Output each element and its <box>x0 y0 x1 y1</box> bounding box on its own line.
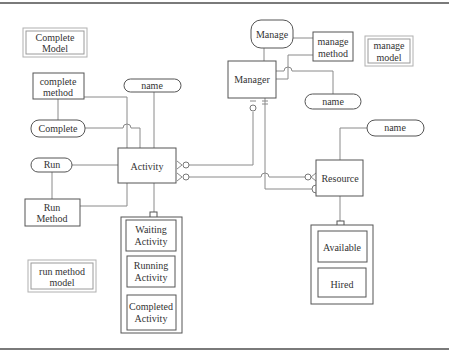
manage-method-label-line2: method <box>318 48 348 59</box>
complete-model-label-line1: Complete <box>36 32 75 43</box>
manage-method-box[interactable]: manage method <box>313 32 353 61</box>
available-resource-state[interactable]: Available <box>318 231 367 262</box>
activity-name-attribute[interactable]: name <box>124 79 181 92</box>
connector-manager-name <box>276 67 333 94</box>
run-method-model-label-line1: run method <box>39 266 85 277</box>
connector-activity-resource <box>188 173 309 177</box>
connector-complete-activity <box>85 124 140 148</box>
manager-name-label: name <box>322 96 344 107</box>
complete-method-label-line1: complete <box>40 76 77 87</box>
resource-name-attribute[interactable]: name <box>367 120 424 136</box>
zero-circle-icon <box>305 174 311 180</box>
run-method-box[interactable]: Run Method <box>25 199 80 226</box>
run-method-model-box[interactable]: run method model <box>28 260 96 292</box>
zero-circle-icon <box>250 105 256 111</box>
connector-resource-name <box>340 128 367 160</box>
run-method-model-label-line2: model <box>50 277 75 288</box>
er-diagram-canvas: Complete Model complete method name Comp… <box>0 0 449 355</box>
resource-entity-label: Resource <box>321 173 359 184</box>
run-method-label-line2: Method <box>36 213 67 224</box>
zero-circle-icon <box>183 162 189 168</box>
running-activity-label-line2: Activity <box>135 272 168 283</box>
resource-entity[interactable]: Resource <box>316 160 363 196</box>
manager-entity[interactable]: Manager <box>228 61 276 98</box>
waiting-activity-state[interactable]: Waiting Activity <box>126 220 176 251</box>
manage-event-label: Manage <box>256 29 289 40</box>
manage-model-box[interactable]: manage model <box>365 36 413 66</box>
activity-name-label: name <box>141 80 163 91</box>
resource-states-container: Available Hired <box>311 225 373 304</box>
available-state-label: Available <box>323 242 362 253</box>
connector-complete-method-activity <box>84 97 127 148</box>
waiting-activity-label-line2: Activity <box>135 236 168 247</box>
complete-model-label-line2: Model <box>42 43 68 54</box>
manage-model-label-line2: model <box>377 52 402 63</box>
crowfoot-icon <box>177 173 182 181</box>
hired-resource-state[interactable]: Hired <box>318 268 366 297</box>
complete-event-label: Complete <box>39 123 78 134</box>
connector-activity-manager <box>188 112 253 165</box>
cardinality-symbols <box>150 101 344 227</box>
hired-state-label: Hired <box>331 279 354 290</box>
run-event[interactable]: Run <box>31 158 72 172</box>
manager-name-attribute[interactable]: name <box>305 94 361 109</box>
manage-event[interactable]: Manage <box>251 20 293 48</box>
run-event-label: Run <box>44 159 61 170</box>
completed-activity-state[interactable]: Completed Activity <box>127 295 176 330</box>
running-activity-label-line1: Running <box>134 260 168 271</box>
resource-name-label: name <box>384 122 406 133</box>
activity-entity-label: Activity <box>131 161 164 172</box>
completed-activity-label-line1: Completed <box>129 301 173 312</box>
zero-circle-icon <box>183 174 189 180</box>
connector-runmethod-activity <box>80 183 127 206</box>
running-activity-state[interactable]: Running Activity <box>127 256 175 287</box>
complete-event[interactable]: Complete <box>31 120 85 137</box>
crowfoot-icon <box>177 161 182 169</box>
manage-method-label-line1: manage <box>317 36 349 47</box>
complete-method-box[interactable]: complete method <box>33 73 84 99</box>
crowfoot-icon <box>311 173 316 181</box>
manager-entity-label: Manager <box>234 74 270 85</box>
waiting-activity-label-line1: Waiting <box>135 224 166 235</box>
run-method-label-line1: Run <box>44 202 61 213</box>
complete-model-box[interactable]: Complete Model <box>23 28 87 57</box>
complete-method-label-line2: method <box>43 87 73 98</box>
manage-model-label-line1: manage <box>373 40 405 51</box>
activity-states-container: Waiting Activity Running Activity Comple… <box>121 217 182 333</box>
completed-activity-label-line2: Activity <box>135 313 168 324</box>
activity-entity[interactable]: Activity <box>118 148 176 183</box>
